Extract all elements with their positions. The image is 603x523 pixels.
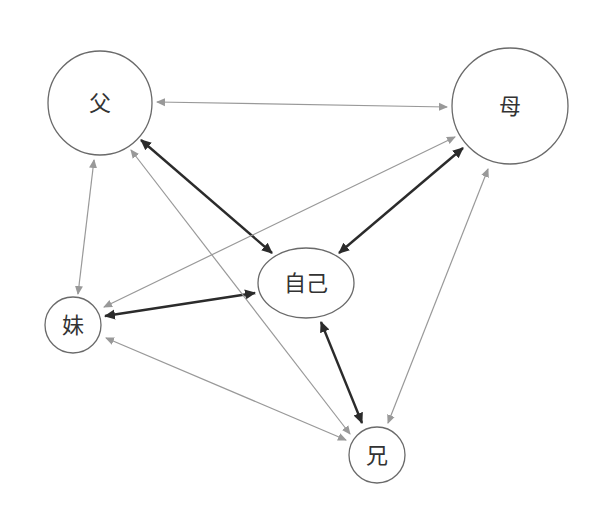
- node-father: 父: [48, 51, 152, 155]
- node-label-sister: 妹: [62, 313, 84, 338]
- edge-mother-brother: [388, 169, 488, 423]
- node-sister: 妹: [45, 297, 101, 353]
- node-label-brother: 兄: [366, 443, 388, 468]
- node-label-mother: 母: [499, 94, 521, 119]
- node-brother: 兄: [349, 427, 405, 483]
- edge-sister-brother: [106, 338, 346, 440]
- nodes-layer: 父母自己妹兄: [45, 48, 568, 483]
- edge-self-brother: [321, 322, 362, 423]
- family-diagram: 父母自己妹兄: [0, 0, 603, 523]
- node-label-self: 自己: [284, 271, 328, 296]
- edge-father-mother: [157, 102, 447, 107]
- node-mother: 母: [452, 48, 568, 164]
- node-label-father: 父: [89, 91, 111, 116]
- node-self: 自己: [258, 248, 354, 318]
- edge-father-self: [141, 140, 272, 253]
- edge-father-sister: [78, 160, 94, 294]
- edge-sister-self: [105, 293, 255, 316]
